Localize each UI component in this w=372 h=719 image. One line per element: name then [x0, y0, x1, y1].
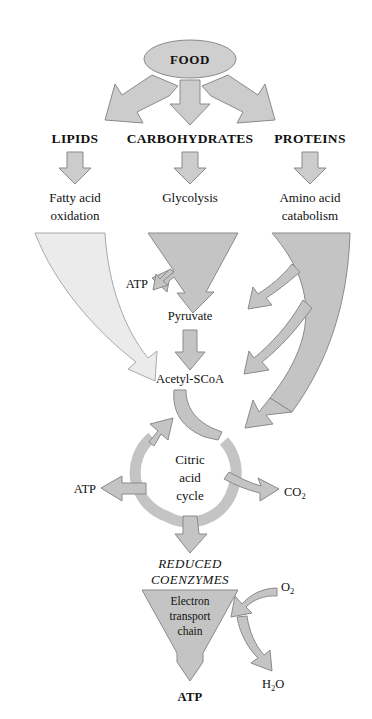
atp-cycle-label: ATP — [74, 482, 96, 496]
amino-acid-catabolism-line1: Amino acid — [279, 190, 341, 205]
metabolism-diagram: FOOD LIPIDS CARBOHYDRATES PROTEINS Fatty… — [0, 0, 372, 719]
etc-line1: Electron — [171, 595, 210, 607]
amino-acid-catabolism-line2: catabolism — [282, 208, 338, 223]
etc-line2: transport — [170, 610, 212, 623]
citric-cycle-line3: cycle — [176, 488, 204, 503]
atp-glycolysis-label: ATP — [126, 277, 148, 291]
reduced-coenzymes-line1: REDUCED — [157, 556, 222, 571]
citric-cycle-line1: Citric — [175, 452, 205, 467]
fatty-acid-oxidation-line1: Fatty acid — [49, 190, 101, 205]
citric-cycle-line2: acid — [179, 470, 201, 485]
fatty-acid-oxidation-line2: oxidation — [50, 208, 100, 223]
diagram-canvas: FOOD LIPIDS CARBOHYDRATES PROTEINS Fatty… — [0, 0, 372, 719]
acetyl-scoa-label: Acetyl-SCoA — [156, 372, 224, 386]
atp-final-label: ATP — [178, 690, 203, 704]
etc-line3: chain — [178, 625, 203, 637]
lipids-label: LIPIDS — [52, 131, 99, 146]
carbohydrates-label: CARBOHYDRATES — [127, 131, 254, 146]
glycolysis-label: Glycolysis — [162, 190, 218, 205]
food-label: FOOD — [170, 52, 210, 67]
proteins-label: PROTEINS — [274, 131, 345, 146]
pyruvate-label: Pyruvate — [168, 309, 213, 323]
reduced-coenzymes-line2: COENZYMES — [151, 572, 229, 587]
